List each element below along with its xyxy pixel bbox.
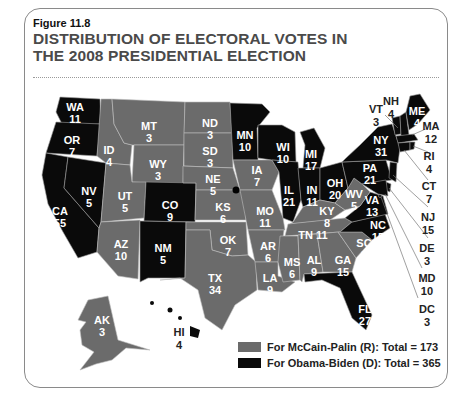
label-KS: KS6 [215, 201, 230, 225]
swatch-democrat [238, 358, 261, 368]
label-LA: LA9 [263, 272, 278, 296]
map-legend: For McCain-Palin (R): Total = 173 For Ob… [238, 339, 441, 371]
label-WA: WA11 [66, 101, 84, 125]
legend-democrat-label: For Obama-Biden (D): Total = 365 [267, 357, 441, 369]
label-MO: MO11 [256, 205, 274, 229]
label-WV: WV5 [345, 188, 363, 212]
label-MD: MD10 [418, 272, 435, 298]
label-SD: SD3 [202, 145, 217, 169]
state-RI [410, 142, 415, 150]
label-OR: OR7 [64, 134, 81, 158]
state-MA [396, 134, 418, 143]
district-marker-dot [233, 187, 240, 194]
label-CO: CO9 [162, 199, 179, 223]
state-AK [78, 296, 150, 370]
label-NM: NM5 [154, 242, 171, 266]
label-OH: OH20 [327, 177, 344, 201]
label-MN: MN10 [236, 129, 253, 153]
label-MT: MT3 [141, 120, 157, 144]
label-HI: HI4 [174, 326, 185, 352]
label-NV: NV5 [81, 185, 96, 209]
legend-democrat: For Obama-Biden (D): Total = 365 [238, 355, 441, 371]
label-AR: AR6 [260, 240, 276, 264]
label-DE: DE3 [419, 242, 434, 268]
label-CA: CA55 [52, 205, 68, 229]
label-TN: TN 11 [298, 229, 327, 241]
label-NH: NH4 [383, 95, 399, 121]
label-FL: FL27 [358, 303, 371, 327]
label-AK: AK3 [94, 314, 110, 338]
label-PA: PA21 [363, 162, 377, 186]
label-KY: KY8 [319, 205, 334, 229]
label-UT: UT5 [118, 190, 133, 214]
label-NJ: NJ15 [421, 211, 435, 237]
label-VT: VT3 [369, 103, 383, 129]
label-NE: NE5 [205, 173, 220, 197]
swatch-republican [238, 342, 261, 352]
label-WI: WI10 [276, 141, 289, 165]
label-DC: DC3 [419, 303, 435, 329]
label-WY: WY3 [149, 158, 167, 182]
label-CT: CT7 [422, 180, 437, 206]
state-NJ [389, 162, 397, 182]
label-IL: IL21 [283, 184, 295, 208]
label-AZ: AZ10 [114, 238, 129, 262]
label-AL: AL9 [307, 254, 322, 278]
label-MS: MS6 [284, 256, 301, 280]
label-ID: ID4 [104, 144, 115, 168]
label-NC: NC15 [370, 219, 386, 243]
label-VA: VA13 [365, 194, 379, 218]
label-OK: OK7 [220, 234, 237, 258]
label-ND: ND3 [202, 117, 218, 141]
label-MA: MA12 [422, 120, 439, 146]
label-NY: NY31 [373, 134, 388, 158]
label-MI: MI17 [305, 148, 317, 172]
label-IN: IN11 [306, 184, 318, 208]
label-RI: RI4 [424, 150, 435, 176]
legend-republican-label: For McCain-Palin (R): Total = 173 [267, 341, 438, 353]
label-TX: TX34 [208, 272, 222, 296]
state-NY [342, 124, 400, 163]
legend-republican: For McCain-Palin (R): Total = 173 [238, 339, 441, 355]
label-IA: IA7 [252, 164, 263, 188]
label-GA: GA15 [335, 254, 352, 278]
